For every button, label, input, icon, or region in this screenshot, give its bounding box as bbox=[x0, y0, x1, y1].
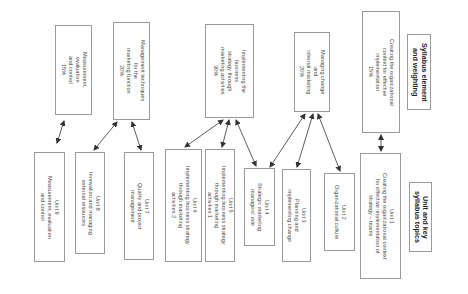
arrow-i30-u5 bbox=[222, 120, 229, 147]
arrow-mt20-u8 bbox=[94, 122, 117, 150]
arrow-i30-u4 bbox=[236, 120, 256, 166]
arrow-me15-u9 bbox=[57, 121, 64, 143]
connector-arrows bbox=[0, 0, 468, 294]
arrow-m20-u2 bbox=[318, 114, 340, 171]
arrow-mt20-u7 bbox=[132, 122, 141, 150]
arrow-i30-u6 bbox=[185, 120, 223, 147]
